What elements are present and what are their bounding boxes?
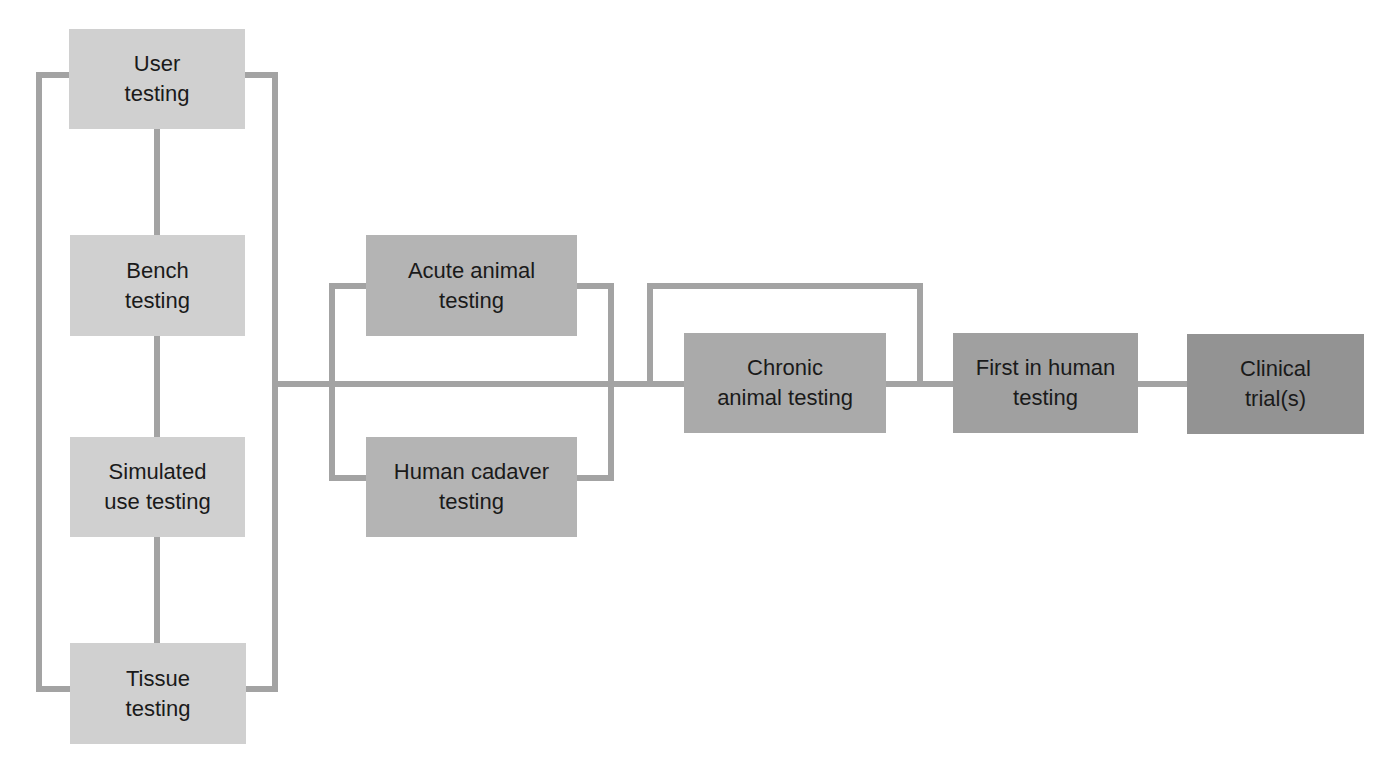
node-user-testing: User testing bbox=[69, 29, 245, 129]
connector-left-bracket-vertical bbox=[36, 72, 42, 692]
connector-acute-right-vertical bbox=[608, 283, 614, 481]
node-simulated-use-testing: Simulated use testing bbox=[70, 437, 245, 537]
connector-acute-left-vertical bbox=[329, 283, 335, 481]
node-tissue-testing: Tissue testing bbox=[70, 643, 246, 744]
node-human-cadaver-testing: Human cadaver testing bbox=[366, 437, 577, 537]
node-chronic-animal-testing: Chronic animal testing bbox=[684, 333, 886, 433]
connector-left-bracket-bottom bbox=[36, 686, 70, 692]
connector-cadaver-left-bottom bbox=[329, 475, 366, 481]
connector-bypass-left-vertical bbox=[647, 283, 653, 387]
connector-cadaver-right-bottom bbox=[577, 475, 614, 481]
connector-bypass-top bbox=[647, 283, 923, 289]
connector-first-to-clinical bbox=[1138, 381, 1187, 387]
connector-chronic-to-first bbox=[886, 381, 953, 387]
connector-bypass-right-vertical bbox=[917, 283, 923, 387]
connector-main-horizontal bbox=[278, 381, 684, 387]
node-bench-testing: Bench testing bbox=[70, 235, 245, 336]
connector-center-vertical bbox=[154, 129, 160, 643]
connector-right-bracket-bottom bbox=[245, 686, 278, 692]
node-first-in-human-testing: First in human testing bbox=[953, 333, 1138, 433]
node-acute-animal-testing: Acute animal testing bbox=[366, 235, 577, 336]
node-clinical-trials: Clinical trial(s) bbox=[1187, 334, 1364, 434]
